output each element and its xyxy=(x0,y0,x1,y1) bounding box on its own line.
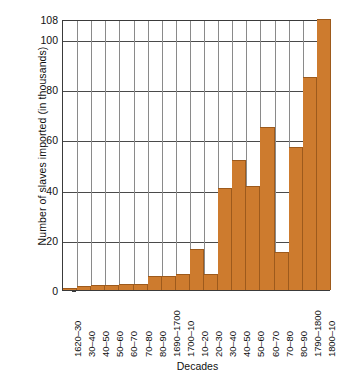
bar xyxy=(77,286,91,290)
bar xyxy=(317,19,331,290)
bar xyxy=(176,274,190,290)
bar-series xyxy=(63,21,329,290)
x-axis-tick-labels: 1620–3030–4040–5050–6060–7070–8080–90169… xyxy=(62,293,330,359)
y-tick-label: 60 xyxy=(18,135,58,145)
bar xyxy=(63,288,77,291)
x-tick-label: 60–70 xyxy=(129,331,139,357)
y-tick-label: 100 xyxy=(18,35,58,45)
x-tick-label: 1800–10 xyxy=(327,321,337,357)
x-tick-label: 1790–1800 xyxy=(313,310,323,357)
bar xyxy=(204,274,218,290)
x-tick-label: 80–90 xyxy=(158,331,168,357)
bar xyxy=(91,285,105,290)
y-tick-mark xyxy=(72,291,76,292)
bar xyxy=(246,186,260,290)
bar xyxy=(289,147,303,290)
y-tick-label: 20 xyxy=(18,236,58,246)
bar xyxy=(260,127,274,290)
x-tick-label: 40–50 xyxy=(101,331,111,357)
x-tick-label: 80–90 xyxy=(299,331,309,357)
bar xyxy=(162,276,176,290)
y-tick-label: 80 xyxy=(18,85,58,95)
x-axis-title: Decades xyxy=(60,360,335,372)
bar xyxy=(119,284,133,290)
bar xyxy=(190,249,204,290)
x-tick-label: 1700–10 xyxy=(186,321,196,357)
plot-area xyxy=(62,20,330,291)
bar xyxy=(218,188,232,290)
y-axis-tick-labels: 020406080100108 xyxy=(14,20,58,291)
x-tick-label: 20–30 xyxy=(214,331,224,357)
x-tick-label: 1690–1700 xyxy=(172,310,182,357)
y-tick-label: 40 xyxy=(18,186,58,196)
bar xyxy=(303,77,317,290)
x-tick-label: 70–80 xyxy=(144,331,154,357)
x-tick-label: 30–40 xyxy=(87,331,97,357)
y-tick-label: 0 xyxy=(18,286,58,296)
x-tick-label: 50–60 xyxy=(115,331,125,357)
bar xyxy=(148,276,162,290)
x-tick-label: 10–20 xyxy=(200,331,210,357)
bar xyxy=(105,285,119,290)
x-tick-label: 70–80 xyxy=(285,331,295,357)
x-tick-label: 60–70 xyxy=(271,331,281,357)
x-tick-label: 40–50 xyxy=(242,331,252,357)
bar xyxy=(134,284,148,290)
x-tick-label: 30–40 xyxy=(228,331,238,357)
x-tick-label: 50–60 xyxy=(256,331,266,357)
x-tick-label: 1620–30 xyxy=(73,321,83,357)
y-tick-label: 108 xyxy=(18,15,58,25)
bar xyxy=(275,252,289,290)
bar xyxy=(232,160,246,291)
